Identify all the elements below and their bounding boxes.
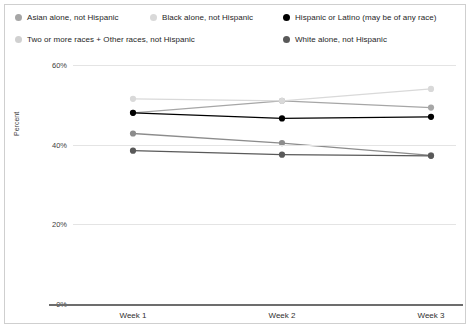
y-axis-tick-labels: 60%40%20%0% <box>5 65 71 304</box>
x-axis-tick-label: Week 2 <box>269 311 296 320</box>
data-point-marker[interactable] <box>130 148 136 154</box>
gridline <box>73 145 456 146</box>
series-group <box>130 148 434 159</box>
gridline <box>73 65 456 66</box>
plot-area <box>73 65 456 304</box>
legend-marker-icon <box>150 14 157 21</box>
data-point-marker[interactable] <box>130 130 136 136</box>
x-axis-line <box>49 304 463 306</box>
y-axis-tick-label: 20% <box>52 220 67 229</box>
legend-label: Black alone, not Hispanic <box>162 13 253 22</box>
legend-label: White alone, not Hispanic <box>295 35 387 44</box>
x-axis-tick-label: Week 3 <box>418 311 445 320</box>
series-group <box>130 86 434 104</box>
legend-marker-icon <box>283 14 290 21</box>
data-point-marker[interactable] <box>428 105 434 111</box>
series-group <box>130 110 434 122</box>
legend-label: Asian alone, not Hispanic <box>27 13 119 22</box>
legend-marker-icon <box>15 36 22 43</box>
legend-label: Hispanic or Latino (may be of any race) <box>295 13 437 22</box>
legend-marker-icon <box>15 14 22 21</box>
legend-item[interactable]: Black alone, not Hispanic <box>150 13 253 22</box>
data-point-marker[interactable] <box>428 114 434 120</box>
y-axis-title: Percent <box>13 112 20 136</box>
legend-label: Two or more races + Other races, not His… <box>27 35 195 44</box>
y-axis-tick-label: 40% <box>52 140 67 149</box>
data-point-marker[interactable] <box>279 152 285 158</box>
x-axis-tick-label: Week 1 <box>120 311 147 320</box>
data-point-marker[interactable] <box>428 86 434 92</box>
y-axis-tick-label: 60% <box>52 61 67 70</box>
legend-item[interactable]: Two or more races + Other races, not His… <box>15 35 195 44</box>
legend-item[interactable]: Hispanic or Latino (may be of any race) <box>283 13 437 22</box>
gridline <box>73 224 456 225</box>
legend-item[interactable]: White alone, not Hispanic <box>283 35 387 44</box>
legend-item[interactable]: Asian alone, not Hispanic <box>15 13 119 22</box>
data-point-marker[interactable] <box>130 110 136 116</box>
legend-marker-icon <box>283 36 290 43</box>
chart-container: Asian alone, not HispanicBlack alone, no… <box>4 4 466 324</box>
data-point-marker[interactable] <box>279 115 285 121</box>
series-layer <box>73 65 456 304</box>
data-point-marker[interactable] <box>130 96 136 102</box>
data-point-marker[interactable] <box>428 153 434 159</box>
chart-legend: Asian alone, not HispanicBlack alone, no… <box>5 5 465 57</box>
data-point-marker[interactable] <box>279 98 285 104</box>
